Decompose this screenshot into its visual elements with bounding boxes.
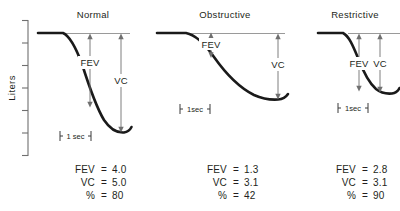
- y-axis: Liters: [6, 20, 28, 156]
- stat-value-vc: 5.0: [112, 177, 127, 188]
- vc-arrow-head-up: [275, 34, 280, 40]
- vc-arrow-restrictive: VC: [371, 34, 391, 93]
- stat-eq-vc: =: [101, 177, 107, 188]
- fev-label-obstructive: FEV: [201, 39, 221, 50]
- stat-value-fev: 4.0: [112, 164, 127, 175]
- stat-key-fev: FEV: [207, 164, 227, 175]
- fev-arrow-head-down: [87, 102, 92, 108]
- fev-label-restrictive: FEV: [349, 58, 369, 69]
- stat-eq-vc: =: [362, 177, 368, 188]
- duration-marker-restrictive: 1sec: [338, 103, 368, 113]
- stat-value-percent: 80: [112, 190, 124, 201]
- fev-arrow-head-up: [87, 34, 92, 40]
- y-axis-label: Liters: [6, 75, 17, 101]
- stat-eq-percent: =: [362, 190, 368, 201]
- stat-key-vc: VC: [342, 177, 356, 188]
- fev-arrow-head-down: [356, 86, 361, 92]
- duration-label-normal: 1 sec: [67, 132, 85, 141]
- vc-arrow-head-up: [377, 34, 382, 40]
- vc-label-restrictive: VC: [373, 58, 387, 69]
- stat-key-fev: FEV: [336, 164, 356, 175]
- stat-key-percent: %: [86, 190, 95, 201]
- stat-eq-fev: =: [362, 164, 368, 175]
- duration-marker-normal: 1 sec: [60, 131, 91, 141]
- stat-eq-fev: =: [101, 164, 107, 175]
- stat-key-vc: VC: [81, 177, 95, 188]
- fev-arrow-normal: FEV: [78, 34, 102, 108]
- stat-eq-fev: =: [233, 164, 239, 175]
- fev-label-normal: FEV: [80, 57, 100, 68]
- fev-arrow-head-up: [356, 34, 361, 40]
- panel-restrictive: Restrictive FEV VC: [318, 9, 400, 201]
- stat-value-vc: 3.1: [244, 177, 259, 188]
- stat-value-fev: 1.3: [244, 164, 259, 175]
- stats-obstructive: FEV = 1.3 VC = 3.1 % = 42: [207, 164, 259, 201]
- stat-key-percent: %: [347, 190, 356, 201]
- spirometry-figure: Liters Normal FEV VC: [0, 0, 400, 211]
- stat-eq-vc: =: [233, 177, 239, 188]
- stats-restrictive: FEV = 2.8 VC = 3.1 % = 90: [336, 164, 388, 201]
- stat-value-vc: 3.1: [373, 177, 388, 188]
- vc-label-normal: VC: [114, 75, 128, 86]
- panel-obstructive: Obstructive FEV VC: [157, 9, 289, 201]
- stat-eq-percent: =: [233, 190, 239, 201]
- duration-marker-obstructive: 1sec: [180, 104, 210, 114]
- fev-arrow-obstructive: FEV: [199, 33, 223, 59]
- vc-label-obstructive: VC: [271, 59, 285, 70]
- stat-key-percent: %: [218, 190, 227, 201]
- panel-title-restrictive: Restrictive: [331, 9, 379, 20]
- panel-title-normal: Normal: [77, 9, 109, 20]
- vc-arrow-obstructive: VC: [267, 34, 289, 100]
- panel-normal: Normal FEV VC: [38, 9, 132, 201]
- stat-value-fev: 2.8: [373, 164, 388, 175]
- stat-value-percent: 90: [373, 190, 385, 201]
- vc-arrow-head-up: [118, 34, 123, 40]
- stats-normal: FEV = 4.0 VC = 5.0 % = 80: [75, 164, 127, 201]
- duration-label-restrictive: 1sec: [345, 104, 361, 113]
- stat-eq-percent: =: [101, 190, 107, 201]
- stat-key-vc: VC: [213, 177, 227, 188]
- panel-title-obstructive: Obstructive: [199, 9, 250, 20]
- vc-arrow-normal: VC: [110, 34, 132, 133]
- stat-key-fev: FEV: [75, 164, 95, 175]
- duration-label-obstructive: 1sec: [187, 105, 203, 114]
- stat-value-percent: 42: [244, 190, 256, 201]
